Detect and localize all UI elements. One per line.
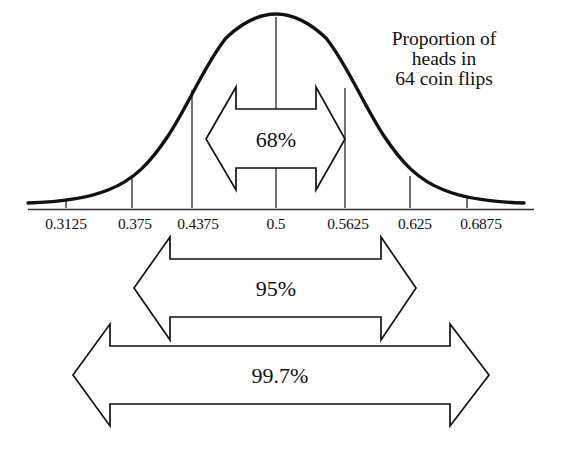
figure-caption: Proportion of heads in 64 coin flips xyxy=(392,28,497,89)
figure-canvas: 0.3125 0.375 0.4375 0.5 0.5625 0.625 0.6… xyxy=(0,0,562,459)
tick-label-3: 0.5 xyxy=(267,215,286,232)
caption-line-3: 64 coin flips xyxy=(395,68,493,89)
x-axis-tick-labels: 0.3125 0.375 0.4375 0.5 0.5625 0.625 0.6… xyxy=(45,215,502,232)
band-95-annotation: 95% xyxy=(134,237,416,340)
band-68-label: 68% xyxy=(256,127,296,152)
tick-label-0: 0.3125 xyxy=(45,215,87,232)
band-95-label: 95% xyxy=(256,276,296,301)
tick-label-6: 0.6875 xyxy=(460,215,502,232)
tick-label-5: 0.625 xyxy=(398,215,432,232)
tick-label-4: 0.5625 xyxy=(327,215,369,232)
band-997-label: 99.7% xyxy=(252,363,309,388)
tick-label-2: 0.4375 xyxy=(177,215,219,232)
caption-line-2: heads in xyxy=(412,48,477,69)
tick-label-1: 0.375 xyxy=(118,215,152,232)
band-997-annotation: 99.7% xyxy=(73,324,489,426)
caption-line-1: Proportion of xyxy=(392,28,497,49)
normal-distribution-figure: 0.3125 0.375 0.4375 0.5 0.5625 0.625 0.6… xyxy=(0,0,562,459)
